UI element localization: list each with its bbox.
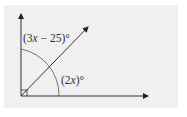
angle-arc: [21, 49, 59, 96]
lower-angle-label: (2x)°: [61, 74, 85, 87]
upper-angle-label: (3x − 25)°: [23, 32, 70, 45]
angle-diagram: (3x − 25)° (2x)°: [0, 0, 187, 117]
